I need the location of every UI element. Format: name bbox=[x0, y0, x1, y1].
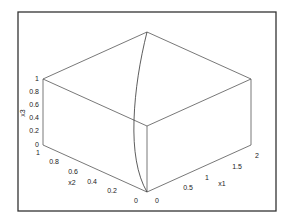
x2-tick: 0 bbox=[134, 197, 138, 204]
box-edge-top-back-left bbox=[43, 32, 147, 79]
x3-tick-labels: 1 0.8 0.6 0.4 0.2 0 bbox=[29, 75, 39, 148]
x3-tick: 0.4 bbox=[29, 114, 39, 121]
x2-axis-label: x2 bbox=[68, 179, 76, 186]
x1-tick-labels: 0 0.5 1 1.5 2 bbox=[155, 152, 259, 204]
x2-tick-labels: 1 0.8 0.6 0.4 0.2 0 bbox=[36, 149, 138, 204]
x2-tick: 0.2 bbox=[107, 187, 117, 194]
x2-tick: 0.6 bbox=[68, 168, 78, 175]
x1-tick: 1.5 bbox=[232, 163, 242, 170]
x2-tick: 0.8 bbox=[49, 158, 59, 165]
x1-tick: 0.5 bbox=[183, 184, 193, 191]
x1-axis-label: x1 bbox=[218, 180, 226, 187]
x3-tick: 0 bbox=[35, 141, 39, 148]
x3-tick: 0.6 bbox=[29, 101, 39, 108]
box-edge-top-front-right bbox=[147, 79, 251, 126]
x3-axis-label: x3 bbox=[19, 109, 26, 117]
x1-tick: 0 bbox=[155, 197, 159, 204]
plot-3d: 1 0.8 0.6 0.4 0.2 0 x3 1 0.8 0.6 0.4 0.2… bbox=[0, 0, 289, 222]
x3-tick: 0.8 bbox=[29, 88, 39, 95]
x2-tick: 0.4 bbox=[87, 178, 97, 185]
box-edge-top-back-right bbox=[147, 32, 251, 79]
x3-tick: 0.2 bbox=[29, 127, 39, 134]
x1-tick: 2 bbox=[255, 152, 259, 159]
x2-tick: 1 bbox=[36, 149, 40, 156]
trajectory-curve bbox=[134, 32, 147, 192]
box-edge-top-front-left bbox=[43, 79, 147, 126]
x3-tick: 1 bbox=[35, 75, 39, 82]
x1-tick: 1 bbox=[205, 174, 209, 181]
